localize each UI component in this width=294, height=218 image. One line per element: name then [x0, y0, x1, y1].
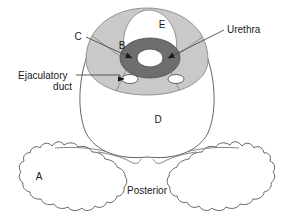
ejaculatory-duct-left	[122, 75, 138, 84]
label-urethra: Urethra	[227, 24, 261, 35]
prostate-cross-section-diagram: C B E D A Urethra Ejaculatory duct Poste…	[0, 0, 294, 218]
label-ejaculatory-duct-line1: Ejaculatory	[18, 70, 67, 81]
label-c: C	[74, 31, 81, 42]
label-a: A	[36, 171, 43, 182]
label-b: B	[119, 40, 126, 51]
label-e: E	[159, 19, 166, 30]
diagram-canvas: C B E D A Urethra Ejaculatory duct Poste…	[0, 0, 294, 218]
label-posterior: Posterior	[127, 185, 168, 196]
label-d: D	[154, 114, 161, 125]
urethra-lumen	[137, 49, 163, 67]
urethra-group	[120, 38, 180, 78]
label-ejaculatory-duct-line2: duct	[53, 81, 72, 92]
ejaculatory-duct-right	[168, 75, 184, 84]
